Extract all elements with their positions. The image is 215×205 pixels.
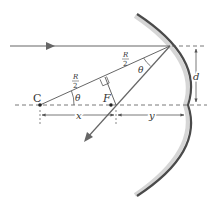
label-F: F	[102, 92, 111, 105]
label-R-left: R	[72, 73, 79, 81]
label-y: y	[148, 110, 155, 121]
label-theta-C: θ	[75, 93, 81, 103]
angle-arc-mirror	[144, 58, 151, 66]
label-C: C	[33, 92, 41, 105]
incident-ray-arrow-icon	[46, 42, 55, 50]
label-2-left: 2	[73, 82, 77, 90]
label-2-top: 2	[123, 60, 127, 68]
label-R-top: R	[122, 51, 129, 59]
concave-mirror-diagram: C F R 2 R 2 θ θ d x y	[0, 0, 215, 205]
label-d: d	[193, 71, 199, 82]
label-x: x	[76, 110, 82, 121]
diagram-svg: C F R 2 R 2 θ θ d x y	[0, 0, 215, 205]
mirror-light-edge	[135, 16, 188, 195]
angle-arc-C	[72, 91, 75, 105]
label-theta-mirror: θ	[138, 65, 144, 75]
reflected-ray	[87, 46, 170, 138]
